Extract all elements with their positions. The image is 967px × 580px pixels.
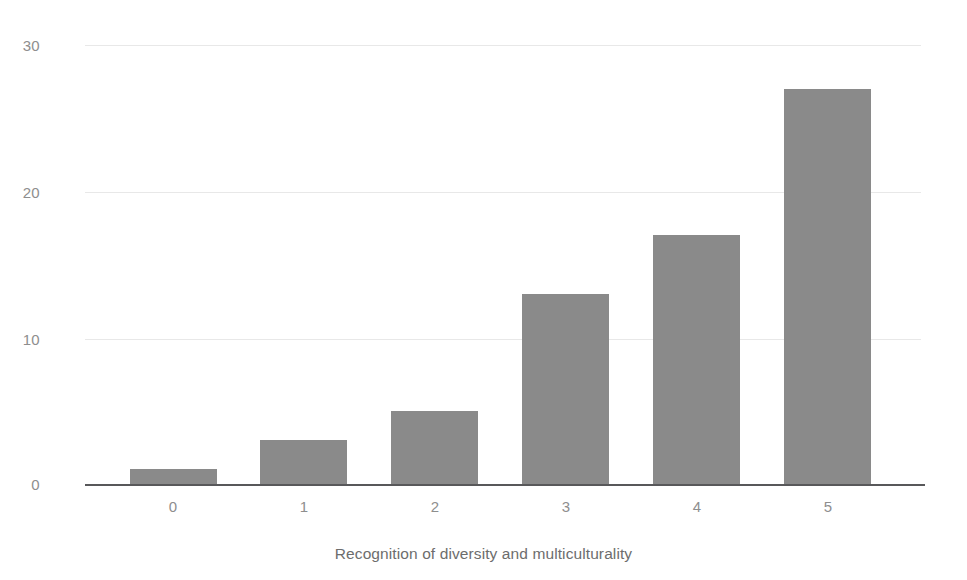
bar-category-1 — [260, 440, 347, 484]
y-axis-tick-20: 20 — [0, 184, 40, 201]
bars-layer — [85, 30, 925, 484]
x-axis-title: Recognition of diversity and multicultur… — [0, 545, 967, 563]
bar-category-3 — [522, 294, 609, 484]
x-axis-tick-2: 2 — [395, 498, 475, 515]
y-axis-tick-0: 0 — [0, 476, 40, 493]
x-axis-tick-3: 3 — [526, 498, 606, 515]
bar-category-2 — [391, 411, 478, 484]
bar-category-4 — [653, 235, 740, 484]
y-axis-tick-10: 10 — [0, 331, 40, 348]
bar-category-5 — [784, 89, 871, 484]
x-axis-tick-4: 4 — [657, 498, 737, 515]
x-axis-tick-5: 5 — [788, 498, 868, 515]
bar-category-0 — [130, 469, 217, 484]
x-axis-line — [85, 484, 925, 486]
y-axis-tick-30: 30 — [0, 37, 40, 54]
bar-chart: 30 20 10 0 0 1 2 3 4 5 Recognition of di… — [0, 0, 967, 580]
x-axis-tick-1: 1 — [264, 498, 344, 515]
x-axis-tick-0: 0 — [133, 498, 213, 515]
